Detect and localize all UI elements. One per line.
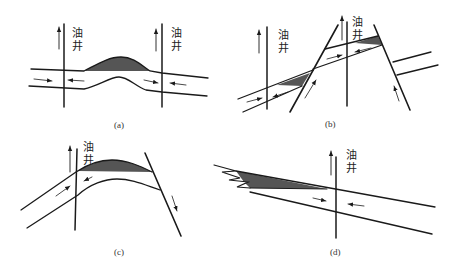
well-label-char: 油: [82, 141, 94, 154]
trap-diagram: [0, 0, 454, 278]
well-label-char: 油: [351, 16, 363, 29]
panel-caption-b: (b): [325, 119, 336, 129]
panel-c: [21, 146, 181, 236]
panel-b: [238, 16, 438, 112]
well-label-char: 井: [71, 40, 83, 53]
well-label-char: 油: [71, 27, 83, 40]
well-label-a-right: 油 井: [170, 27, 182, 53]
fault-2: [374, 25, 410, 110]
well-label-char: 油: [345, 149, 357, 162]
panel-caption-a: (a): [114, 120, 124, 130]
well-label-d: 油 井: [345, 149, 357, 175]
fault: [145, 153, 181, 236]
panel-caption-c: (c): [114, 247, 124, 257]
well-label-c: 油 井: [82, 141, 94, 167]
oil-well-c: [75, 149, 77, 230]
well-label-char: 井: [345, 162, 357, 175]
well-label-char: 井: [82, 154, 94, 167]
well-label-char: 井: [277, 42, 289, 55]
panel-d: [214, 151, 435, 238]
well-label-a-left: 油 井: [71, 27, 83, 53]
well-label-char: 油: [170, 27, 182, 40]
well-label-char: 油: [277, 29, 289, 42]
panel-caption-d: (d): [330, 247, 341, 257]
well-label-b-right: 油 井: [351, 16, 363, 42]
fault-1: [290, 25, 338, 112]
well-label-b-left: 油 井: [277, 29, 289, 55]
well-label-char: 井: [170, 40, 182, 53]
well-label-char: 井: [351, 29, 363, 42]
